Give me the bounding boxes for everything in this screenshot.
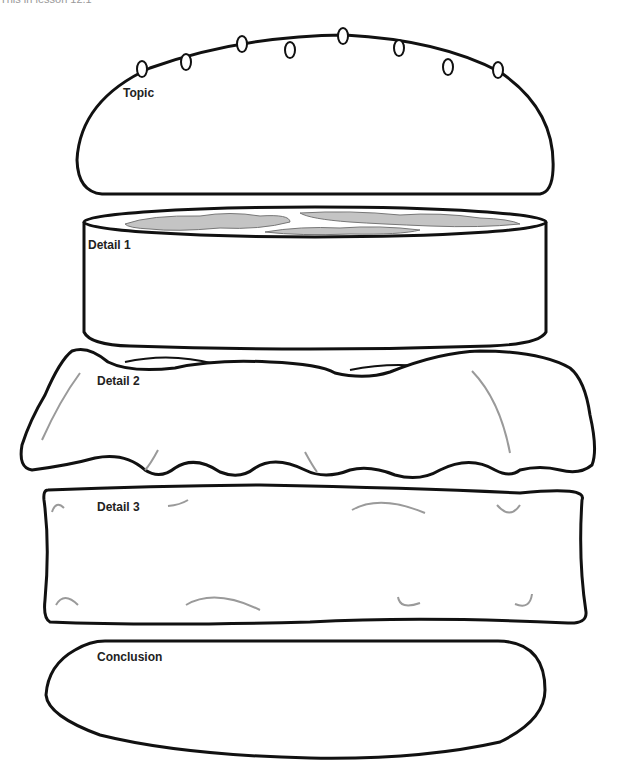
detail-2-label: Detail 2 (97, 374, 140, 388)
detail-3-label: Detail 3 (97, 500, 140, 514)
detail-1-label: Detail 1 (88, 238, 131, 252)
conclusion-label: Conclusion (97, 650, 162, 664)
topic-label: Topic (123, 86, 154, 100)
detail-3-writing-area[interactable] (60, 518, 570, 608)
topic-writing-area[interactable] (110, 105, 530, 185)
conclusion-writing-area[interactable] (80, 668, 530, 743)
detail-1-writing-area[interactable] (95, 255, 535, 335)
detail-2-writing-area[interactable] (60, 392, 560, 452)
